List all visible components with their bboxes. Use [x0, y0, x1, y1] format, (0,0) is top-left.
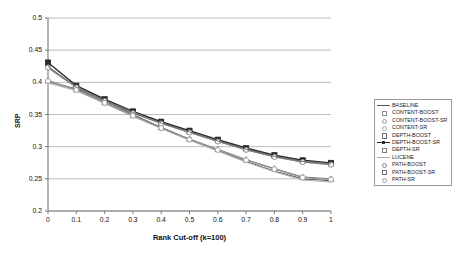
- legend-label: BASELINE: [392, 102, 418, 109]
- chart-series: [46, 61, 334, 166]
- data-point-marker: [130, 113, 135, 118]
- chart-figure: 0.20.250.30.350.40.450.500.10.20.30.40.5…: [0, 0, 458, 265]
- x-axis-tick-label: 0.6: [204, 216, 232, 223]
- legend-item: CONTENT-SR: [377, 124, 448, 131]
- legend-marker-icon: [377, 110, 390, 117]
- data-point-marker: [244, 158, 249, 163]
- chart-series: [48, 66, 331, 164]
- legend-item: CONTENT-BOOST: [377, 109, 448, 116]
- data-point-marker: [102, 100, 107, 105]
- data-point-marker: [329, 162, 334, 167]
- x-axis-tick-label: 0.5: [176, 216, 204, 223]
- x-axis-tick-label: 0.8: [260, 216, 288, 223]
- data-point-marker: [159, 126, 164, 131]
- x-axis-tick-label: 0.7: [232, 216, 260, 223]
- y-axis-tick-label: 0.2: [8, 207, 42, 214]
- data-point-marker: [329, 177, 334, 182]
- x-axis-tick-label: 0.9: [289, 216, 317, 223]
- x-axis-tick-label: 1: [317, 216, 345, 223]
- y-axis-title: SRP: [14, 114, 21, 128]
- legend-label: PATH-BOOST: [392, 161, 426, 168]
- legend-marker-icon: [377, 147, 390, 154]
- data-point-marker: [272, 167, 277, 172]
- x-axis-tick-label: 0.1: [62, 216, 90, 223]
- series-line: [48, 67, 331, 164]
- legend-marker-icon: [377, 154, 390, 161]
- x-axis-title: Rank Cut-off (k=100): [48, 233, 331, 242]
- legend-label: PATH-BOOST-SR: [392, 169, 435, 176]
- x-axis-tick-label: 0: [34, 216, 62, 223]
- legend-item: PATH-SR: [377, 176, 448, 183]
- series-line: [48, 62, 331, 162]
- data-point-marker: [300, 175, 305, 180]
- legend-marker-icon: [377, 117, 390, 124]
- chart-series: [46, 64, 334, 166]
- legend-item: CONTENT-BOOST-SR: [377, 117, 448, 124]
- y-axis-tick-label: 0.4: [8, 78, 42, 85]
- legend-label: DEPTH-SR: [392, 146, 420, 153]
- x-axis-tick-label: 0.4: [147, 216, 175, 223]
- legend-label: CONTENT-BOOST-SR: [392, 117, 447, 124]
- x-axis-tick-label: 0.3: [119, 216, 147, 223]
- y-axis-tick-label: 0.45: [8, 46, 42, 53]
- legend-label: PATH-SR: [392, 176, 415, 183]
- y-axis-tick-label: 0.25: [8, 175, 42, 182]
- legend-label: CONTENT-SR: [392, 124, 427, 131]
- legend-item: PATH-BOOST: [377, 161, 448, 168]
- legend-marker-icon: [377, 161, 390, 168]
- legend-label: CONTENT-BOOST: [392, 109, 438, 116]
- legend-label: DEPTH-BOOST-SR: [392, 139, 440, 146]
- chart-legend: BASELINECONTENT-BOOSTCONTENT-BOOST-SRCON…: [374, 99, 452, 186]
- legend-item: DEPTH-BOOST-SR: [377, 139, 448, 146]
- axes: [45, 18, 331, 214]
- legend-marker-icon: [377, 102, 390, 109]
- series-line: [48, 63, 331, 163]
- data-point-marker: [187, 137, 192, 142]
- legend-item: BASELINE: [377, 102, 448, 109]
- data-point-marker: [215, 147, 220, 152]
- legend-item: PATH-BOOST-SR: [377, 169, 448, 176]
- legend-item: LUCENE: [377, 154, 448, 161]
- legend-marker-icon: [377, 169, 390, 176]
- data-point-marker: [46, 79, 51, 84]
- legend-item: DEPTH-BOOST: [377, 132, 448, 139]
- legend-item: DEPTH-SR: [377, 146, 448, 153]
- y-axis-tick-label: 0.3: [8, 143, 42, 150]
- series-line: [48, 66, 331, 164]
- legend-label: LUCENE: [392, 154, 414, 161]
- chart-series: [46, 65, 334, 167]
- x-axis-tick-label: 0.2: [91, 216, 119, 223]
- legend-label: DEPTH-BOOST: [392, 132, 431, 139]
- legend-marker-icon: [377, 132, 390, 139]
- legend-marker-icon: [377, 176, 390, 183]
- legend-marker-icon: [377, 124, 390, 131]
- y-axis-tick-label: 0.5: [8, 14, 42, 21]
- data-point-marker: [46, 60, 51, 65]
- legend-marker-icon: [377, 139, 390, 146]
- chart-series: [46, 60, 334, 165]
- data-point-marker: [74, 88, 79, 93]
- grid-lines: [48, 18, 331, 211]
